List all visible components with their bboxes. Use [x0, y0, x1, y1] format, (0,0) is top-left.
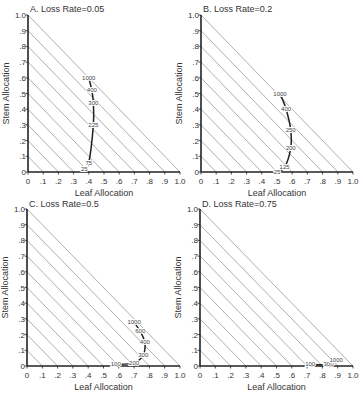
y-tick-label: .6 — [19, 74, 26, 83]
y-tick-label: 0 — [195, 168, 200, 177]
x-axis-label: Leaf Allocation — [74, 382, 133, 392]
y-tick-label: .4 — [191, 299, 198, 308]
curve-point-label: 300 — [138, 352, 149, 358]
curve-point-label: 250 — [286, 127, 297, 133]
x-tick-label: .6 — [288, 371, 295, 380]
y-tick-label: .6 — [18, 268, 25, 277]
allocation-figure: 0.1.2.3.4.5.6.7.8.91.00.1.2.3.4.5.6.7.8.… — [0, 0, 362, 394]
x-tick-label: .8 — [146, 371, 153, 380]
y-tick-label: .3 — [192, 121, 199, 130]
y-tick-label: 1.0 — [14, 205, 26, 214]
x-tick-label: .4 — [85, 371, 92, 380]
x-tick-label: 0 — [198, 371, 203, 380]
chart-panel-a: 0.1.2.3.4.5.6.7.8.91.00.1.2.3.4.5.6.7.8.… — [1, 4, 186, 198]
y-tick-label: .1 — [192, 152, 199, 161]
y-tick-label: .9 — [19, 27, 26, 36]
y-axis-label: Stem Allocation — [0, 256, 10, 318]
curve-point-label: 400 — [87, 87, 98, 93]
x-tick-label: .2 — [228, 177, 235, 186]
x-axis-label: Leaf Allocation — [247, 382, 306, 392]
y-tick-label: .4 — [192, 105, 199, 114]
x-tick-label: .1 — [213, 177, 220, 186]
curve-point-label: 1000 — [82, 75, 96, 81]
x-tick-label: .3 — [70, 371, 77, 380]
x-tick-label: .3 — [70, 177, 77, 186]
y-tick-label: .8 — [192, 42, 199, 51]
x-tick-label: .9 — [334, 371, 341, 380]
curve-point-label: 200 — [129, 360, 140, 366]
x-tick-label: .7 — [131, 177, 138, 186]
curve-point-label: 1000 — [273, 91, 287, 97]
curve-point-label: 125 — [280, 164, 291, 170]
curve-point-label: 25 — [81, 166, 88, 172]
curve-point-label: 300 — [88, 100, 99, 106]
y-tick-label: .1 — [19, 152, 26, 161]
x-tick-label: 1.0 — [174, 177, 186, 186]
y-tick-label: .8 — [191, 236, 198, 245]
y-tick-label: .3 — [19, 121, 26, 130]
y-tick-label: .8 — [19, 42, 26, 51]
y-tick-label: .4 — [18, 299, 25, 308]
x-tick-label: .6 — [116, 177, 123, 186]
y-tick-label: 0 — [194, 362, 199, 371]
y-tick-label: .2 — [192, 137, 199, 146]
y-tick-label: 1.0 — [188, 11, 200, 20]
y-tick-label: .9 — [191, 221, 198, 230]
isolines — [27, 209, 180, 366]
y-tick-label: 1.0 — [15, 11, 27, 20]
curve-point-label: 400 — [140, 339, 151, 345]
x-tick-label: .9 — [334, 177, 341, 186]
x-tick-label: .5 — [274, 177, 281, 186]
x-tick-label: .1 — [40, 177, 47, 186]
y-axis-label: Stem Allocation — [173, 256, 183, 318]
panel-title: D. Loss Rate=0.75 — [202, 199, 277, 209]
y-axis-label: Stem Allocation — [174, 62, 184, 124]
y-tick-label: .3 — [191, 315, 198, 324]
y-axis-label: Stem Allocation — [1, 62, 11, 124]
x-tick-label: .8 — [146, 177, 153, 186]
x-tick-label: 1.0 — [347, 371, 359, 380]
y-tick-label: .7 — [192, 58, 199, 67]
x-tick-label: .2 — [54, 371, 61, 380]
x-tick-label: .5 — [101, 177, 108, 186]
panel-title: B. Loss Rate=0.2 — [203, 4, 272, 14]
curve-point-label: 200 — [286, 145, 297, 151]
panel-title: A. Loss Rate=0.05 — [30, 4, 104, 14]
curve-point-label: 400 — [281, 106, 292, 112]
y-tick-label: .2 — [19, 137, 26, 146]
panel-title: C. Loss Rate=0.5 — [29, 199, 99, 209]
x-tick-label: .5 — [273, 371, 280, 380]
y-tick-label: 0 — [22, 168, 27, 177]
y-tick-label: .8 — [18, 236, 25, 245]
y-tick-label: 0 — [21, 362, 26, 371]
x-tick-label: 1.0 — [174, 371, 186, 380]
curve-point-label: 100 — [305, 361, 316, 367]
curve-point-label: 1000 — [329, 357, 343, 363]
x-tick-label: .4 — [85, 177, 92, 186]
y-tick-label: .5 — [191, 284, 198, 293]
y-tick-label: .2 — [18, 331, 25, 340]
x-axis-label: Leaf Allocation — [248, 188, 307, 198]
x-tick-label: .3 — [243, 177, 250, 186]
x-tick-label: .8 — [319, 371, 326, 380]
x-tick-label: .9 — [161, 371, 168, 380]
x-tick-label: .4 — [258, 177, 265, 186]
y-tick-label: .9 — [18, 221, 25, 230]
x-tick-label: .1 — [39, 371, 46, 380]
curve-point-label: 600 — [135, 328, 146, 334]
y-tick-label: .6 — [192, 74, 199, 83]
isolines — [200, 209, 353, 366]
chart-panel-c: 0.1.2.3.4.5.6.7.8.91.00.1.2.3.4.5.6.7.8.… — [0, 199, 186, 392]
curve-point-label: 100 — [111, 361, 122, 367]
x-tick-label: .1 — [212, 371, 219, 380]
y-tick-label: .2 — [191, 331, 198, 340]
x-tick-label: .6 — [115, 371, 122, 380]
x-tick-label: .8 — [319, 177, 326, 186]
x-tick-label: .7 — [131, 371, 138, 380]
x-tick-label: .6 — [289, 177, 296, 186]
y-tick-label: .1 — [18, 346, 25, 355]
curve-point-label: 225 — [88, 122, 99, 128]
x-tick-label: .2 — [227, 371, 234, 380]
y-tick-label: .3 — [18, 315, 25, 324]
chart-panel-d: 0.1.2.3.4.5.6.7.8.91.00.1.2.3.4.5.6.7.8.… — [173, 199, 359, 392]
